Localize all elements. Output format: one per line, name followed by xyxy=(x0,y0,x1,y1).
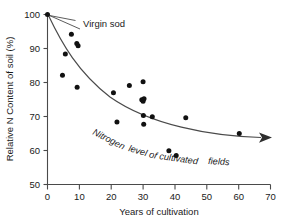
x-tick-label: 10 xyxy=(74,191,85,202)
nitrogen-decline-curve xyxy=(49,16,273,143)
data-point xyxy=(75,85,80,90)
data-point xyxy=(166,148,171,153)
data-point xyxy=(114,119,119,124)
y-tick-label: 90 xyxy=(29,43,40,54)
x-tick-label: 0 xyxy=(45,191,50,202)
y-tick-label: 60 xyxy=(29,145,40,156)
scatter-plot-svg: 100 90 80 70 60 50 0 10 20 30 40 50 60 7… xyxy=(0,0,286,222)
data-point xyxy=(174,153,179,158)
curve-label-part3: cultivated xyxy=(159,151,200,166)
curve-label-part2: level of xyxy=(127,143,159,161)
data-point xyxy=(76,43,81,48)
data-point xyxy=(142,96,147,101)
x-tick-label: 20 xyxy=(106,191,117,202)
data-point xyxy=(237,131,242,136)
y-tick-label: 100 xyxy=(24,9,40,20)
data-point xyxy=(150,114,155,119)
y-axis-ticks xyxy=(44,15,48,185)
y-tick-labels: 100 90 80 70 60 50 xyxy=(24,9,40,190)
x-tick-label: 60 xyxy=(233,191,244,202)
data-points-layer xyxy=(45,12,242,158)
data-point xyxy=(141,113,146,118)
data-point xyxy=(63,51,68,56)
y-axis-title: Relative N Content of soil (%) xyxy=(4,37,15,162)
axes xyxy=(44,15,271,190)
data-point xyxy=(127,83,132,88)
x-tick-label: 40 xyxy=(170,191,181,202)
data-point xyxy=(183,115,188,120)
x-tick-label: 30 xyxy=(138,191,149,202)
x-tick-label: 50 xyxy=(202,191,213,202)
data-point xyxy=(60,73,65,78)
virgin-sod-label: Virgin sod xyxy=(83,18,125,29)
x-axis-ticks xyxy=(48,185,271,190)
chart-figure: 100 90 80 70 60 50 0 10 20 30 40 50 60 7… xyxy=(0,0,286,222)
x-tick-labels: 0 10 20 30 40 50 60 70 xyxy=(45,191,276,202)
data-point xyxy=(111,90,116,95)
data-point xyxy=(45,12,50,17)
data-point xyxy=(69,32,74,37)
x-tick-label: 70 xyxy=(265,191,276,202)
y-tick-label: 80 xyxy=(29,77,40,88)
curve-label-part4: fields xyxy=(208,156,230,167)
data-point xyxy=(141,79,146,84)
data-point xyxy=(141,122,146,127)
y-tick-label: 70 xyxy=(29,111,40,122)
x-axis-title: Years of cultivation xyxy=(119,206,198,217)
y-tick-label: 50 xyxy=(29,179,40,190)
curve-label-part1: Nitrogen xyxy=(91,127,126,152)
